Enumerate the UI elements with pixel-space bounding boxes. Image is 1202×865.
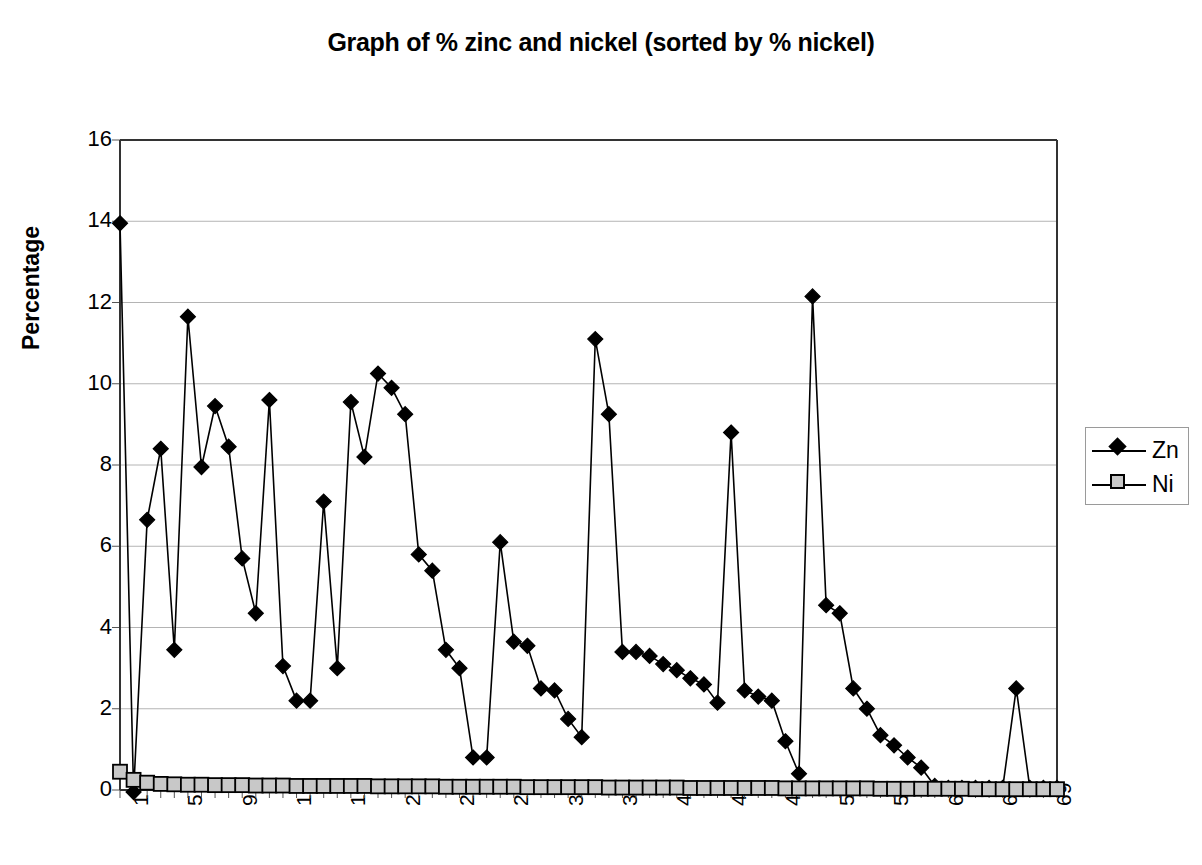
- data-point-zn: [574, 730, 589, 745]
- data-point-ni: [140, 776, 154, 790]
- data-point-zn: [316, 494, 331, 509]
- data-point-zn: [642, 648, 657, 663]
- data-point-zn: [438, 642, 453, 657]
- data-point-ni: [113, 765, 127, 779]
- data-point-ni: [371, 779, 385, 793]
- data-point-zn: [547, 683, 562, 698]
- data-point-ni: [194, 778, 208, 792]
- data-point-zn: [846, 681, 861, 696]
- data-point-ni: [765, 781, 779, 795]
- plot-area: [0, 0, 1202, 865]
- data-point-ni: [629, 781, 643, 795]
- data-point-zn: [737, 683, 752, 698]
- data-point-zn: [167, 642, 182, 657]
- data-point-zn: [588, 332, 603, 347]
- data-point-zn: [1009, 681, 1024, 696]
- data-point-ni: [575, 780, 589, 794]
- data-point-ni: [222, 778, 236, 792]
- data-point-zn: [180, 309, 195, 324]
- data-point-ni: [846, 781, 860, 795]
- data-point-ni: [873, 782, 887, 796]
- data-point-zn: [656, 657, 671, 672]
- square-marker-icon: [1110, 474, 1125, 489]
- data-point-ni: [833, 781, 847, 795]
- data-point-zn: [696, 677, 711, 692]
- data-point-ni: [1036, 782, 1050, 796]
- data-point-ni: [615, 781, 629, 795]
- data-point-zn: [343, 395, 358, 410]
- data-point-ni: [357, 779, 371, 793]
- data-point-zn: [275, 659, 290, 674]
- data-point-ni: [303, 779, 317, 793]
- data-point-ni: [670, 781, 684, 795]
- data-point-ni: [398, 779, 412, 793]
- data-point-zn: [262, 393, 277, 408]
- data-point-zn: [140, 512, 155, 527]
- data-point-ni: [969, 782, 983, 796]
- data-point-zn: [914, 760, 929, 775]
- data-point-ni: [778, 781, 792, 795]
- data-point-ni: [887, 782, 901, 796]
- data-point-zn: [235, 551, 250, 566]
- data-point-zn: [330, 661, 345, 676]
- data-point-zn: [832, 606, 847, 621]
- data-point-zn: [819, 598, 834, 613]
- diamond-marker-icon: [1108, 437, 1126, 455]
- data-point-ni: [792, 781, 806, 795]
- data-point-ni: [941, 782, 955, 796]
- data-point-ni: [507, 780, 521, 794]
- data-point-zn: [669, 663, 684, 678]
- legend-item-ni[interactable]: Ni: [1086, 468, 1190, 502]
- data-point-ni: [290, 779, 304, 793]
- data-point-ni: [724, 781, 738, 795]
- data-point-zn: [805, 289, 820, 304]
- data-point-zn: [778, 734, 793, 749]
- data-point-zn: [520, 638, 535, 653]
- data-point-ni: [643, 781, 657, 795]
- data-point-ni: [127, 773, 141, 787]
- data-point-zn: [629, 644, 644, 659]
- data-point-zn: [791, 766, 806, 781]
- data-point-ni: [656, 781, 670, 795]
- data-point-zn: [221, 439, 236, 454]
- data-point-ni: [249, 779, 263, 793]
- data-point-zn: [724, 425, 739, 440]
- data-point-ni: [181, 778, 195, 792]
- data-point-zn: [561, 711, 576, 726]
- legend-item-zn[interactable]: Zn: [1086, 434, 1190, 468]
- data-point-ni: [955, 782, 969, 796]
- data-point-zn: [248, 606, 263, 621]
- data-point-ni: [697, 781, 711, 795]
- data-point-ni: [276, 779, 290, 793]
- data-point-ni: [602, 781, 616, 795]
- data-point-ni: [561, 780, 575, 794]
- data-point-ni: [806, 781, 820, 795]
- data-point-zn: [533, 681, 548, 696]
- data-point-ni: [534, 780, 548, 794]
- legend-label-zn: Zn: [1152, 437, 1179, 464]
- data-point-ni: [1023, 782, 1037, 796]
- series-line-zn: [120, 223, 1057, 792]
- data-point-ni: [751, 781, 765, 795]
- data-point-ni: [493, 780, 507, 794]
- data-point-ni: [330, 779, 344, 793]
- data-point-zn: [479, 750, 494, 765]
- data-point-ni: [1050, 782, 1064, 796]
- data-point-ni: [262, 779, 276, 793]
- data-point-ni: [860, 781, 874, 795]
- data-point-zn: [710, 695, 725, 710]
- data-point-ni: [738, 781, 752, 795]
- data-point-zn: [601, 407, 616, 422]
- data-point-zn: [751, 689, 766, 704]
- data-point-ni: [154, 777, 168, 791]
- data-point-ni: [928, 782, 942, 796]
- data-point-zn: [357, 449, 372, 464]
- legend-label-ni: Ni: [1152, 471, 1174, 498]
- data-point-ni: [425, 779, 439, 793]
- data-point-ni: [520, 780, 534, 794]
- chart-legend: Zn Ni: [1085, 427, 1189, 505]
- data-point-ni: [480, 780, 494, 794]
- data-point-zn: [859, 701, 874, 716]
- data-point-ni: [982, 782, 996, 796]
- data-point-ni: [548, 780, 562, 794]
